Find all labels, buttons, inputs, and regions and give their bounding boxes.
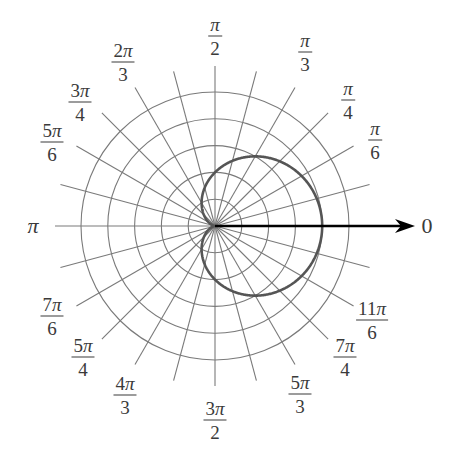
label-numerator: 5π [288, 373, 311, 395]
ray-30deg [215, 146, 354, 226]
ray-150deg [76, 146, 215, 226]
ray-135deg [102, 113, 215, 226]
polar-axis-arrow [215, 219, 415, 233]
label-denominator: 6 [47, 143, 57, 164]
ray-165deg [60, 185, 215, 226]
label-numerator: 2π [111, 41, 134, 63]
label-denominator: 6 [47, 317, 57, 338]
angle-label-0: 0 [422, 215, 433, 237]
ray-330deg [215, 226, 354, 306]
label-numerator: 5π [40, 121, 63, 143]
label-denominator: 2 [210, 37, 220, 58]
polar-grid-plot [0, 0, 454, 457]
label-denominator: 2 [210, 421, 220, 442]
ray-240deg [135, 226, 215, 365]
label-denominator: 3 [300, 53, 310, 74]
label-numerator: π [208, 15, 222, 37]
label-numerator: π [341, 79, 355, 101]
angle-label-pi-6: π6 [368, 119, 382, 162]
label-denominator: 4 [343, 101, 353, 122]
angle-label-5pi-6: 5π6 [40, 121, 63, 164]
label-denominator: 4 [340, 358, 350, 379]
ray-120deg [135, 87, 215, 226]
ray-210deg [76, 226, 215, 306]
label-denominator: 4 [75, 103, 85, 124]
ray-105deg [174, 71, 215, 226]
ray-345deg [215, 226, 370, 267]
label-numerator: 3π [203, 399, 226, 421]
label-numerator: 5π [71, 336, 94, 358]
label-numerator: 4π [113, 374, 136, 396]
label-numerator: 3π [68, 81, 91, 103]
angle-label-pi-4: π4 [341, 79, 355, 122]
polar-graph: 0π6π4π3π22π33π45π6π7π65π44π33π25π37π411π… [0, 0, 454, 457]
angle-label-5pi-3: 5π3 [288, 373, 311, 416]
label-numerator: 7π [333, 336, 356, 358]
label-denominator: 4 [78, 358, 88, 379]
ray-255deg [174, 226, 215, 381]
label-numerator: 11π [356, 299, 388, 321]
ray-195deg [60, 226, 215, 267]
angle-label-11pi-6: 11π6 [356, 299, 388, 342]
angle-label-pi: π [27, 215, 38, 237]
ray-75deg [215, 71, 256, 226]
label-numerator: π [368, 119, 382, 141]
angle-label-7pi-4: 7π4 [333, 336, 356, 379]
ray-285deg [215, 226, 256, 381]
label-denominator: 6 [367, 321, 377, 342]
angle-label-7pi-6: 7π6 [40, 295, 63, 338]
angle-label-pi-2: π2 [208, 15, 222, 58]
label-denominator: 3 [118, 63, 128, 84]
ray-315deg [215, 226, 328, 339]
angle-label-3pi-4: 3π4 [68, 81, 91, 124]
label-denominator: 6 [370, 141, 380, 162]
angle-label-2pi-3: 2π3 [111, 41, 134, 84]
angle-label-5pi-4: 5π4 [71, 336, 94, 379]
ray-45deg [215, 113, 328, 226]
ray-15deg [215, 185, 370, 226]
angle-label-4pi-3: 4π3 [113, 374, 136, 417]
angle-label-3pi-2: 3π2 [203, 399, 226, 442]
label-numerator: π [298, 31, 312, 53]
angle-label-pi-3: π3 [298, 31, 312, 74]
label-denominator: 3 [120, 396, 130, 417]
label-numerator: 7π [40, 295, 63, 317]
ray-225deg [102, 226, 215, 339]
label-denominator: 3 [295, 395, 305, 416]
